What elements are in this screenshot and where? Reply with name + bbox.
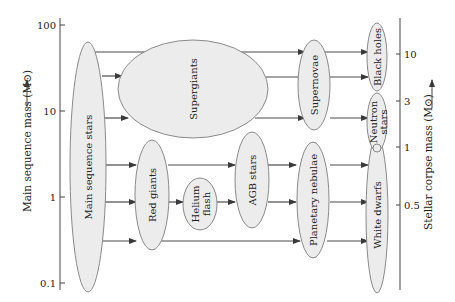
node-black-holes: Black holes — [367, 23, 387, 91]
node-helium-flash: Helium flash — [183, 178, 217, 230]
stellar-evolution-diagram: 100 10 1 0.1 Main sequence mass (M⊙) 10 … — [0, 0, 455, 302]
left-tick-100: 100 — [37, 20, 56, 31]
left-axis: 100 10 1 0.1 Main sequence mass (M⊙) — [21, 18, 65, 290]
svg-text:Supergiants: Supergiants — [188, 58, 199, 120]
right-tick-10: 10 — [404, 49, 417, 60]
svg-text:Planetary nebulae: Planetary nebulae — [308, 154, 319, 246]
svg-text:Red giants: Red giants — [147, 168, 158, 222]
node-supernovae: Supernovae — [298, 40, 330, 130]
node-main-sequence-stars: Main sequence stars — [70, 42, 106, 292]
svg-text:White dwarfs: White dwarfs — [372, 181, 383, 249]
right-axis: 10 3 1 0.5 Stellar corpse mass (M⊙) — [396, 18, 434, 290]
left-tick-10: 10 — [43, 106, 56, 117]
svg-text:stars: stars — [378, 109, 389, 134]
svg-text:AGB stars: AGB stars — [247, 155, 258, 207]
node-agb-stars: AGB stars — [235, 132, 269, 228]
right-axis-label: Stellar corpse mass (M⊙) — [422, 94, 434, 230]
right-tick-1: 1 — [404, 142, 410, 153]
node-planetary-nebulae: Planetary nebulae — [297, 142, 329, 258]
right-tick-3: 3 — [404, 96, 410, 107]
left-tick-1: 1 — [50, 192, 56, 203]
node-neutron-stars: Neutron stars — [367, 93, 389, 152]
svg-text:Supernovae: Supernovae — [309, 55, 320, 115]
left-tick-0.1: 0.1 — [40, 278, 56, 289]
svg-text:Black holes: Black holes — [372, 28, 383, 86]
node-supergiants: Supergiants — [118, 40, 268, 138]
svg-text:Main sequence stars: Main sequence stars — [83, 115, 94, 220]
node-red-giants: Red giants — [135, 140, 169, 250]
svg-text:Helium: Helium — [190, 185, 201, 222]
svg-text:flash: flash — [201, 191, 212, 216]
node-white-dwarfs: White dwarfs — [366, 137, 388, 293]
right-tick-0.5: 0.5 — [404, 200, 420, 211]
